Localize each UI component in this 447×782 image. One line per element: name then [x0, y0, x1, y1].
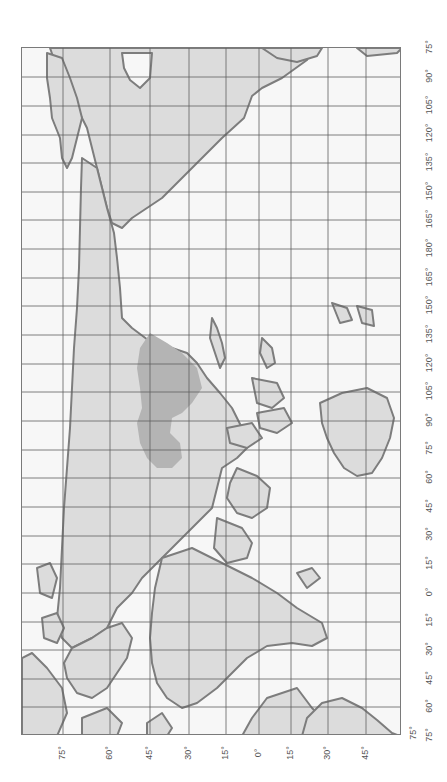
south-america-2 — [302, 698, 400, 735]
longitude-label: 150° — [424, 176, 434, 206]
longitude-label: 180° — [424, 233, 434, 263]
longitude-label: 90° — [424, 405, 434, 435]
longitude-label: 45° — [424, 491, 434, 521]
latitude-label: 75° — [57, 738, 67, 768]
latitude-label: 45° — [144, 738, 154, 768]
longitude-label: 105° — [424, 90, 434, 120]
longitude-label: 90° — [424, 61, 434, 91]
pacific-islands — [357, 306, 374, 326]
longitude-label: 120° — [424, 348, 434, 378]
longitude-label: 135° — [424, 147, 434, 177]
longitude-label: 60° — [424, 462, 434, 492]
arabia — [214, 518, 252, 563]
longitude-label: 75° — [424, 433, 434, 463]
longitude-label: 135° — [424, 319, 434, 349]
latitude-label: 45° — [360, 738, 370, 768]
longitude-label: 15° — [424, 605, 434, 635]
map-frame — [21, 47, 401, 735]
latitude-label: 15° — [285, 738, 295, 768]
longitude-label: 150° — [424, 290, 434, 320]
latitude-label: 15° — [220, 738, 230, 768]
japan-islands — [210, 318, 225, 368]
arctic-far-right — [357, 48, 401, 56]
india — [227, 468, 270, 518]
latitude-label: 75° — [408, 718, 418, 748]
latitude-label: 60° — [104, 738, 114, 768]
longitude-label: 165° — [424, 262, 434, 292]
latitude-label: 30° — [322, 738, 332, 768]
longitude-label: 165° — [424, 204, 434, 234]
alaska-bottom — [147, 713, 172, 735]
greenland — [22, 653, 67, 735]
canada-bottom — [82, 708, 122, 735]
longitude-label: 30° — [424, 519, 434, 549]
longitude-label: 30° — [424, 634, 434, 664]
longitude-label: 45° — [424, 663, 434, 693]
australia — [320, 388, 394, 476]
indonesia-1 — [252, 378, 284, 408]
longitude-label: 105° — [424, 376, 434, 406]
longitude-label: 75° — [424, 32, 434, 62]
longitude-label: 15° — [424, 548, 434, 578]
madagascar — [297, 568, 320, 588]
philippines — [260, 338, 275, 368]
longitude-label: 120° — [424, 118, 434, 148]
latitude-label: 30° — [183, 738, 193, 768]
longitude-label: 75° — [424, 720, 434, 750]
longitude-label: 0° — [424, 577, 434, 607]
longitude-label: 60° — [424, 691, 434, 721]
world-map — [22, 48, 401, 735]
latitude-label: 0° — [253, 738, 263, 768]
new-guinea — [227, 423, 262, 448]
indonesia-2 — [257, 408, 292, 433]
